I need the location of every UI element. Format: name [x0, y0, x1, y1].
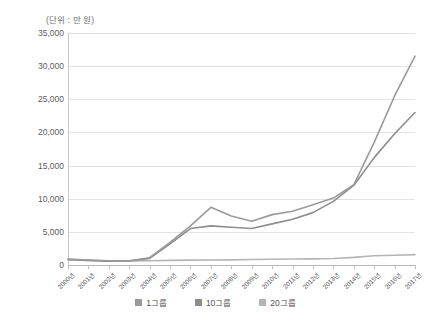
legend: 1그룹10그룹20그룹: [0, 296, 431, 308]
legend-item[interactable]: 1그룹: [135, 296, 167, 308]
legend-swatch-icon: [195, 299, 202, 306]
legend-swatch-icon: [259, 299, 266, 306]
x-axis-labels: 2000년2001년2002년2003년2004년2005년2006년2007년…: [0, 0, 431, 322]
legend-item[interactable]: 10그룹: [195, 296, 231, 308]
legend-label: 10그룹: [206, 296, 231, 308]
legend-label: 1그룹: [146, 296, 167, 308]
chart-container: (단위 : 만 원) 35,00030,00025,00020,00015,00…: [0, 0, 431, 322]
legend-swatch-icon: [135, 299, 142, 306]
legend-item[interactable]: 20그룹: [259, 296, 295, 308]
legend-label: 20그룹: [270, 296, 295, 308]
